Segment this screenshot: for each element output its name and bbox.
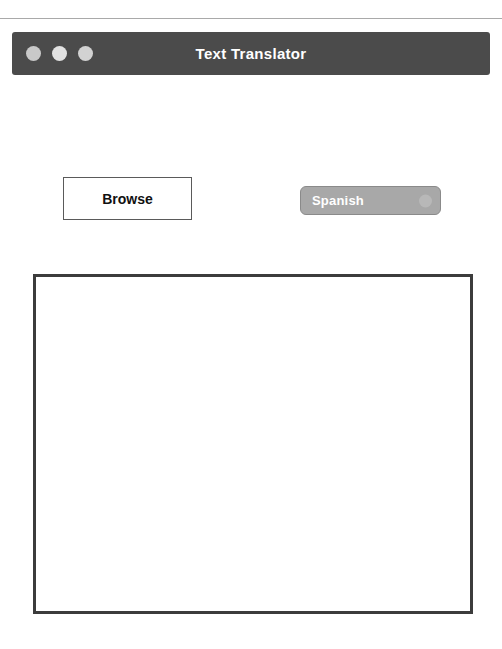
window-title: Text Translator [12,32,490,75]
translation-textarea-container[interactable] [33,274,473,614]
language-dropdown-value: Spanish [301,193,364,208]
language-dropdown[interactable]: Spanish [300,186,441,215]
top-divider [0,18,502,19]
chevron-down-icon[interactable] [419,194,432,207]
window-titlebar: Text Translator [12,32,490,75]
translation-textarea[interactable] [36,277,470,611]
browse-button[interactable]: Browse [63,177,192,220]
